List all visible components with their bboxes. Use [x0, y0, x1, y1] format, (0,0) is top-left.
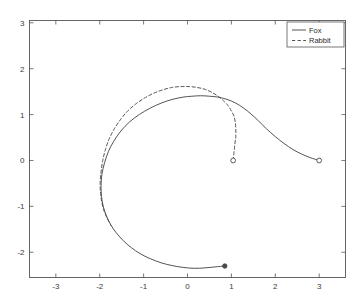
x-tick-label: 1	[229, 282, 234, 291]
y-tick-label: -2	[17, 248, 25, 257]
legend-label-fox: Fox	[309, 26, 322, 35]
y-tick-label: -1	[17, 202, 25, 211]
x-tick-label: -1	[140, 282, 148, 291]
legend-label-rabbit: Rabbit	[309, 36, 332, 45]
y-tick-label: 0	[20, 156, 25, 165]
start-marker-rabbit	[231, 158, 236, 163]
y-tick-label: 2	[20, 65, 25, 74]
x-tick-label: -2	[96, 282, 104, 291]
figure-container: -3-2-10123-2-10123 FoxRabbit	[0, 0, 364, 308]
end-marker-fox	[223, 264, 227, 268]
y-tick-label: 1	[20, 111, 25, 120]
y-tick-label: 3	[20, 19, 25, 28]
pursuit-curve-chart: -3-2-10123-2-10123 FoxRabbit	[0, 0, 364, 308]
start-marker-fox	[317, 158, 322, 163]
x-tick-label: 0	[185, 282, 190, 291]
x-tick-label: 3	[317, 282, 322, 291]
x-tick-label: 2	[273, 282, 278, 291]
legend[interactable]: FoxRabbit	[287, 22, 344, 47]
x-tick-label: -3	[52, 282, 60, 291]
